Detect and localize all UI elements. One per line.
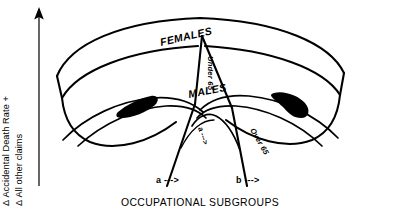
marker-blob-right — [271, 92, 308, 118]
upper-sheet-left-edge — [57, 76, 62, 98]
annotation-a-axis: a ---> — [156, 175, 179, 185]
figure-container: FEMALES MALES Under 65 Over 65 " annotat… — [0, 0, 400, 214]
cusp-surface-drawing: FEMALES MALES Under 65 Over 65 " annotat… — [0, 0, 400, 214]
label-under-65: Under 65 — [206, 56, 215, 91]
marker-blob-left — [116, 96, 157, 118]
cusp-males-left-edge — [167, 104, 195, 186]
y-axis-label-line1: Δ Accidental Death Rate + — [0, 0, 13, 206]
annotation-b-axis: b ---> — [236, 175, 259, 185]
fold-curve-right-upper — [200, 96, 338, 138]
x-axis-label: OCCUPATIONAL SUBGROUPS — [0, 197, 400, 208]
y-axis-label-line2: Δ All other claims — [13, 0, 26, 206]
blob-right-shape — [271, 92, 308, 118]
annotation-a-inner: a ---> — [196, 126, 210, 146]
upper-sheet-right-edge — [340, 73, 344, 95]
y-axis-label: Δ Accidental Death Rate + Δ All other cl… — [0, 0, 26, 206]
y-axis — [34, 7, 44, 186]
cusp-inner-fold-secondary — [181, 120, 214, 148]
blob-left-shape — [116, 96, 157, 118]
upper-sheet-inner-edge-left — [62, 46, 198, 98]
